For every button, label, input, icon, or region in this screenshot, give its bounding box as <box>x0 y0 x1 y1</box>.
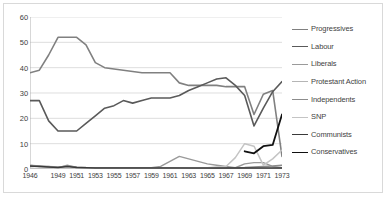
legend-item[interactable]: Communists <box>292 128 352 142</box>
y-axis-tick: 20 <box>20 114 28 123</box>
y-axis-tick: 60 <box>20 13 28 22</box>
x-axis-tick: 1957 <box>125 172 140 179</box>
legend-label: Conservatives <box>311 148 357 156</box>
y-axis: 0102030405060 <box>6 17 28 169</box>
plot-area <box>30 17 282 169</box>
legend-swatch-icon <box>292 152 308 153</box>
x-axis-tick: 1963 <box>181 172 196 179</box>
legend-swatch-icon <box>292 64 308 65</box>
series-lines <box>30 17 282 169</box>
legend-label: Liberals <box>311 60 336 68</box>
legend-swatch-icon <box>292 134 308 135</box>
legend-swatch-icon <box>292 99 308 100</box>
legend-item[interactable]: Conservatives <box>292 145 357 159</box>
legend-item[interactable]: Independents <box>292 92 355 106</box>
legend-swatch-icon <box>292 117 308 118</box>
x-axis-tick: 1955 <box>107 172 122 179</box>
legend-item[interactable]: Labour <box>292 40 334 54</box>
x-axis-tick: 1967 <box>219 172 234 179</box>
legend-label: Communists <box>311 131 352 139</box>
y-axis-tick: 40 <box>20 63 28 72</box>
x-axis-tick: 1951 <box>69 172 84 179</box>
legend-label: Labour <box>311 43 334 51</box>
x-axis-tick: 1959 <box>144 172 159 179</box>
legend-item[interactable]: SNP <box>292 110 326 124</box>
chart-legend: ProgressivesLabourLiberalsProtestant Act… <box>292 22 390 166</box>
legend-swatch-icon <box>292 46 308 47</box>
legend-item[interactable]: Liberals <box>292 57 336 71</box>
x-axis-tick: 1969 <box>237 172 252 179</box>
y-axis-tick: 30 <box>20 89 28 98</box>
legend-label: Protestant Action <box>311 78 366 86</box>
x-axis-tick: 1965 <box>200 172 215 179</box>
series-line <box>30 37 282 156</box>
x-axis-tick: 1973 <box>275 172 290 179</box>
legend-item[interactable]: Protestant Action <box>292 75 366 89</box>
legend-swatch-icon <box>292 29 308 30</box>
legend-swatch-icon <box>292 81 308 82</box>
x-axis-tick: 1949 <box>51 172 66 179</box>
x-axis: 1946194919511953195519571959196119631965… <box>30 172 282 186</box>
chart-frame: 0102030405060 19461949195119531955195719… <box>3 3 383 193</box>
legend-label: SNP <box>311 113 326 121</box>
legend-label: Independents <box>311 96 355 104</box>
y-axis-tick: 50 <box>20 38 28 47</box>
x-axis-tick: 1946 <box>23 172 38 179</box>
legend-item[interactable]: Progressives <box>292 22 353 36</box>
x-axis-tick: 1971 <box>256 172 271 179</box>
y-axis-tick: 10 <box>20 139 28 148</box>
x-axis-tick: 1961 <box>163 172 178 179</box>
series-line <box>30 78 282 131</box>
x-axis-tick: 1953 <box>88 172 103 179</box>
legend-label: Progressives <box>311 25 353 33</box>
